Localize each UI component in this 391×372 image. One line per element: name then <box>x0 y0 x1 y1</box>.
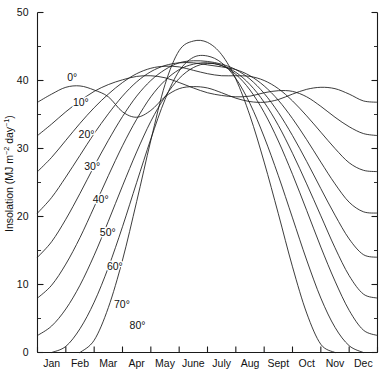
curve-label-80deg: 80° <box>130 319 146 331</box>
latitude-curve-labels: 0°0°10°10°20°20°30°30°40°40°50°50°60°60°… <box>67 71 145 332</box>
curve-label-0deg: 0° <box>67 71 77 83</box>
insolation-chart-figure: 01020304050 JanFebMarAprMayJuneJulyAugSe… <box>0 0 391 372</box>
curve-20deg <box>38 66 378 171</box>
x-label-oct: Oct <box>298 357 314 369</box>
x-label-aug: Aug <box>241 357 260 369</box>
y-axis-tick-labels: 01020304050 <box>17 6 29 358</box>
y-axis-title-text: Insolation (MJ m−2 day−1) <box>2 115 15 232</box>
y-axis-title: Insolation (MJ m−2 day−1) <box>2 115 15 232</box>
curve-label-40deg: 40° <box>93 193 109 205</box>
x-label-dec: Dec <box>354 357 373 369</box>
x-label-mar: Mar <box>99 357 118 369</box>
y-tick-label-50: 50 <box>17 6 29 18</box>
y-tick-label-0: 0 <box>23 346 29 358</box>
y-tick-label-40: 40 <box>17 74 29 86</box>
right-axis-ticks <box>372 13 378 353</box>
y-tick-label-30: 30 <box>17 142 29 154</box>
x-label-feb: Feb <box>71 357 89 369</box>
curve-label-60deg: 60° <box>107 260 123 272</box>
x-label-jan: Jan <box>43 357 60 369</box>
chart-canvas: 01020304050 JanFebMarAprMayJuneJulyAugSe… <box>0 0 391 372</box>
curve-label-10deg: 10° <box>73 96 89 108</box>
y-tick-label-20: 20 <box>17 210 29 222</box>
curve-label-70deg: 70° <box>114 298 130 310</box>
x-label-july: July <box>212 357 231 369</box>
x-label-sept: Sept <box>268 357 290 369</box>
x-label-apr: Apr <box>128 357 145 369</box>
curve-label-30deg: 30° <box>84 160 100 172</box>
curve-label-50deg: 50° <box>100 226 116 238</box>
data-curves <box>38 40 378 352</box>
x-label-nov: Nov <box>326 357 345 369</box>
x-axis-month-labels: JanFebMarAprMayJuneJulyAugSeptOctNovDec <box>43 357 372 369</box>
curve-label-20deg: 20° <box>79 128 95 140</box>
x-label-june: June <box>182 357 205 369</box>
y-tick-label-10: 10 <box>17 278 29 290</box>
x-label-may: May <box>155 357 176 369</box>
